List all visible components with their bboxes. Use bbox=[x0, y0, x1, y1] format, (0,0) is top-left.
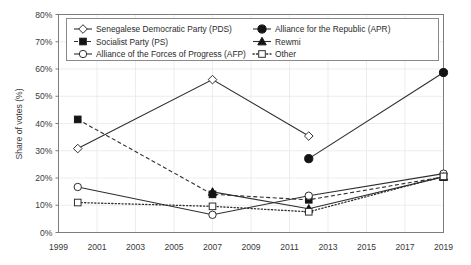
legend-item-afp[interactable]: Alliance of the Forces of Progress (AFP) bbox=[74, 49, 246, 59]
series-apr bbox=[305, 68, 448, 162]
y-tick-label: 70% bbox=[35, 37, 53, 47]
y-tick-label: 30% bbox=[35, 146, 53, 156]
chart-container: 0%10%20%30%40%50%60%70%80% 1999200120032… bbox=[0, 0, 471, 265]
legend-marker-apr bbox=[258, 25, 266, 33]
legend-item-other[interactable]: Other bbox=[253, 49, 296, 59]
data-point-pds bbox=[73, 144, 82, 153]
x-tick-label: 2013 bbox=[318, 242, 337, 252]
y-tick-label: 60% bbox=[35, 64, 53, 74]
legend-label-apr: Alliance for the Republic (APR) bbox=[275, 24, 391, 34]
data-point-pds bbox=[304, 132, 313, 141]
y-tick-label: 0% bbox=[40, 228, 53, 238]
y-tick-label: 10% bbox=[35, 200, 53, 210]
series-line-afp bbox=[78, 174, 444, 215]
series-afp bbox=[74, 170, 447, 219]
series-line-apr bbox=[309, 73, 444, 159]
data-point-other bbox=[209, 203, 216, 210]
x-tick-label: 2009 bbox=[241, 242, 260, 252]
x-tick-label: 2017 bbox=[395, 242, 414, 252]
y-axis-title: Share of votes (%) bbox=[14, 88, 24, 159]
y-axis-ticks: 0%10%20%30%40%50%60%70%80% bbox=[35, 10, 58, 238]
series-pds bbox=[73, 75, 313, 153]
y-tick-label: 40% bbox=[35, 119, 53, 129]
legend-marker-afp bbox=[79, 50, 86, 57]
legend-marker-other bbox=[259, 51, 266, 58]
data-point-ps bbox=[74, 116, 81, 123]
y-tick-label: 20% bbox=[35, 173, 53, 183]
x-tick-label: 2019 bbox=[434, 242, 453, 252]
y-tick-label: 80% bbox=[35, 10, 53, 20]
legend-marker-ps bbox=[80, 38, 87, 45]
x-axis-ticks: 1999200120032005200720092011201320152017… bbox=[49, 242, 453, 252]
data-point-afp bbox=[305, 192, 312, 199]
legend-label-pds: Senegalese Democratic Party (PDS) bbox=[96, 24, 232, 34]
x-tick-label: 2007 bbox=[203, 242, 222, 252]
data-point-afp bbox=[74, 183, 81, 190]
data-point-afp bbox=[209, 211, 216, 218]
legend-label-rewmi: Rewmi bbox=[275, 37, 301, 47]
legend-label-other: Other bbox=[275, 49, 296, 59]
x-tick-label: 2001 bbox=[87, 242, 106, 252]
x-tick-label: 2011 bbox=[280, 242, 299, 252]
series-line-other bbox=[78, 176, 444, 211]
series-other bbox=[74, 173, 446, 215]
legend: Senegalese Democratic Party (PDS)Sociali… bbox=[67, 19, 439, 61]
x-tick-label: 1999 bbox=[49, 242, 68, 252]
data-point-other bbox=[305, 208, 312, 215]
x-tick-label: 2015 bbox=[357, 242, 376, 252]
legend-label-ps: Socialist Party (PS) bbox=[96, 37, 168, 47]
series-line-ps bbox=[78, 119, 444, 199]
line-chart: 0%10%20%30%40%50%60%70%80% 1999200120032… bbox=[0, 0, 471, 265]
series-layer bbox=[73, 68, 447, 218]
data-point-other bbox=[440, 173, 447, 180]
data-point-apr bbox=[305, 155, 313, 163]
data-point-apr bbox=[439, 68, 447, 76]
legend-label-afp: Alliance of the Forces of Progress (AFP) bbox=[96, 49, 246, 59]
data-point-other bbox=[74, 199, 81, 206]
data-point-pds bbox=[208, 75, 217, 84]
x-tick-label: 2003 bbox=[126, 242, 145, 252]
legend-item-pds[interactable]: Senegalese Democratic Party (PDS) bbox=[74, 24, 232, 34]
y-tick-label: 50% bbox=[35, 91, 53, 101]
x-tick-label: 2005 bbox=[164, 242, 183, 252]
